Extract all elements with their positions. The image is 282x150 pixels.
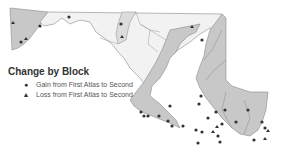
legend-title: Change by Block [8, 66, 133, 77]
legend-item-loss: ▲ Loss from First Atlas to Second [8, 89, 133, 99]
legend-label-gain: Gain from First Atlas to Second [36, 81, 133, 88]
western-region [10, 8, 48, 50]
legend-item-gain: ● Gain from First Atlas to Second [8, 79, 133, 89]
circle-icon: ● [22, 81, 30, 88]
triangle-icon: ▲ [22, 91, 30, 98]
legend: Change by Block ● Gain from First Atlas … [8, 66, 133, 99]
legend-label-loss: Loss from First Atlas to Second [36, 91, 133, 98]
